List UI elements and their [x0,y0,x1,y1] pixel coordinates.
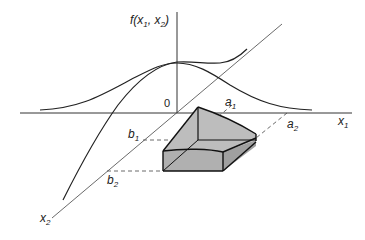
a1-label: a1 [225,95,236,111]
probability-solid [163,107,256,171]
marginal-curve-x1 [40,63,312,110]
marginal-curve-x2 [63,62,177,200]
a2-label: a2 [287,117,299,133]
origin-label: 0 [164,97,170,109]
density-diagram: f(x1, x2) 0 x1 x2 a1 a2 b1 b2 [0,0,365,240]
x1-axis-label: x1 [337,114,348,130]
f-axis-label: f(x1, x2) [130,13,169,29]
b1-label: b1 [128,127,139,143]
ridge-curve [177,49,247,63]
x2-axis-label: x2 [39,211,51,227]
a2-dashed-line [256,113,287,138]
b2-label: b2 [107,173,119,189]
x2-axis [52,24,282,218]
